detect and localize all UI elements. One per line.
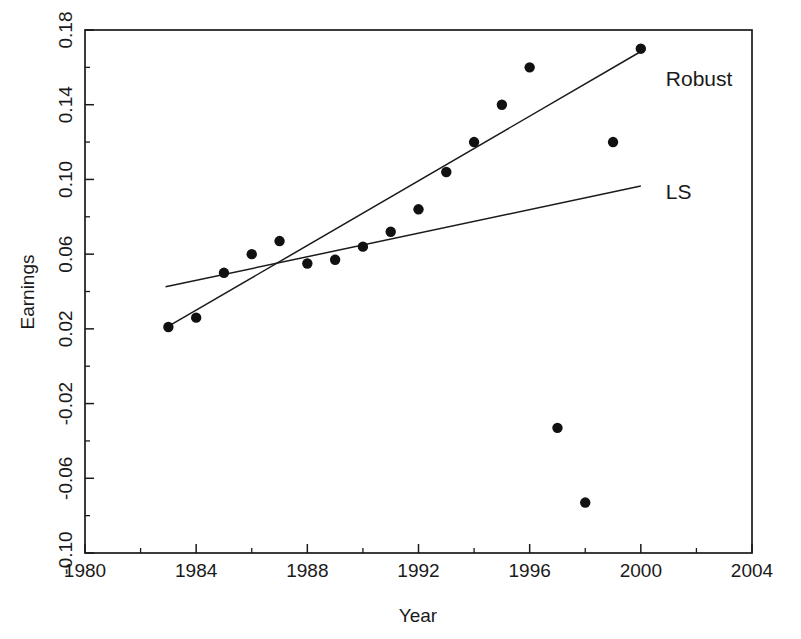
data-point bbox=[497, 100, 507, 110]
data-point bbox=[636, 43, 646, 53]
data-point bbox=[219, 268, 229, 278]
data-point bbox=[358, 241, 368, 251]
y-tick-label: 0.18 bbox=[55, 12, 76, 49]
y-tick-label: 0.10 bbox=[55, 161, 76, 198]
y-axis-tick-labels: -0.10-0.06-0.020.020.060.100.140.18 bbox=[55, 12, 76, 575]
series-label-robust: Robust bbox=[666, 67, 733, 90]
x-tick-label: 1988 bbox=[286, 560, 328, 581]
data-point bbox=[413, 204, 423, 214]
y-tick-label: -0.06 bbox=[55, 457, 76, 500]
y-axis-ticks bbox=[85, 30, 94, 553]
data-point bbox=[191, 312, 201, 322]
data-point bbox=[302, 258, 312, 268]
y-tick-label: -0.02 bbox=[55, 382, 76, 425]
data-point bbox=[163, 322, 173, 332]
data-point bbox=[469, 137, 479, 147]
x-axis-tick-labels: 1980198419881992199620002004 bbox=[64, 560, 774, 581]
data-point bbox=[524, 62, 534, 72]
fit-line-robust bbox=[166, 51, 641, 327]
data-point bbox=[274, 236, 284, 246]
fit-line-ls bbox=[166, 186, 641, 287]
x-tick-label: 1992 bbox=[397, 560, 439, 581]
y-axis-title: Earnings bbox=[17, 255, 38, 330]
data-point bbox=[441, 167, 451, 177]
y-tick-label: -0.10 bbox=[55, 531, 76, 574]
x-tick-label: 2004 bbox=[731, 560, 774, 581]
data-point bbox=[386, 227, 396, 237]
data-point bbox=[247, 249, 257, 259]
x-tick-label: 2000 bbox=[620, 560, 662, 581]
x-tick-label: 1996 bbox=[509, 560, 551, 581]
y-tick-label: 0.02 bbox=[55, 310, 76, 347]
x-axis-ticks bbox=[85, 544, 752, 553]
x-axis-title: Year bbox=[399, 605, 438, 626]
plot-frame bbox=[85, 30, 752, 553]
chart-page: 1980198419881992199620002004 -0.10-0.06-… bbox=[0, 0, 801, 639]
fit-lines bbox=[166, 51, 641, 327]
y-tick-label: 0.06 bbox=[55, 236, 76, 273]
data-point bbox=[552, 423, 562, 433]
series-labels: RobustLS bbox=[666, 67, 733, 202]
series-label-ls: LS bbox=[666, 180, 692, 203]
y-tick-label: 0.14 bbox=[55, 86, 76, 123]
data-point bbox=[580, 497, 590, 507]
x-tick-label: 1984 bbox=[175, 560, 218, 581]
scatter-plot: 1980198419881992199620002004 -0.10-0.06-… bbox=[0, 0, 801, 639]
data-points bbox=[163, 43, 646, 507]
data-point bbox=[608, 137, 618, 147]
data-point bbox=[330, 255, 340, 265]
